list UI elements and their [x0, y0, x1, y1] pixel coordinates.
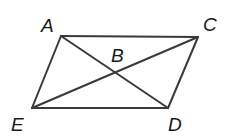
label-d: D — [168, 114, 182, 135]
label-a: A — [40, 15, 54, 36]
label-e: E — [11, 114, 24, 135]
label-b: B — [111, 45, 124, 66]
label-c: C — [203, 14, 217, 35]
segment-ac — [61, 36, 198, 37]
geometry-diagram: A C B E D — [0, 0, 226, 136]
